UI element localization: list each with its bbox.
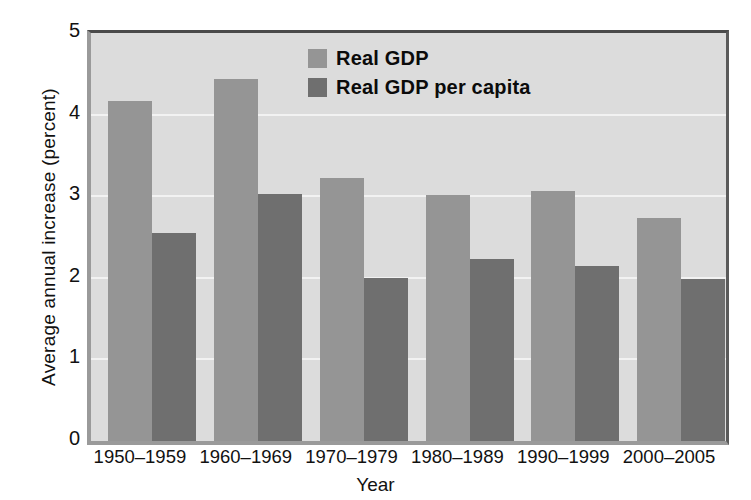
bar	[531, 191, 575, 441]
x-axis-tick-labels: 1950–19591960–19691970–19791980–19891990…	[87, 446, 722, 476]
bar-group	[620, 33, 726, 441]
bar	[364, 278, 408, 441]
bar	[320, 178, 364, 441]
bar	[214, 79, 258, 441]
bar	[637, 218, 681, 441]
bar	[426, 195, 470, 441]
y-tick-label: 2	[58, 265, 80, 285]
bar	[575, 266, 619, 441]
chart-legend: Real GDPReal GDP per capita	[308, 47, 531, 99]
legend-item: Real GDP	[308, 47, 531, 70]
x-tick-label: 1990–1999	[510, 446, 616, 468]
y-tick-label: 3	[58, 183, 80, 203]
y-tick-label: 0	[58, 428, 80, 448]
x-tick-label: 1970–1979	[299, 446, 405, 468]
x-tick-label: 1980–1989	[405, 446, 511, 468]
y-tick-label: 4	[58, 102, 80, 122]
y-tick-label: 1	[58, 346, 80, 366]
y-axis-tick-labels: 012345	[52, 0, 80, 500]
x-axis-title: Year	[0, 474, 751, 496]
x-tick-label: 1950–1959	[87, 446, 193, 468]
legend-item: Real GDP per capita	[308, 76, 531, 99]
bar	[258, 194, 302, 441]
bar	[681, 279, 725, 441]
bar-group	[197, 33, 303, 441]
bar-group	[91, 33, 197, 441]
bar	[108, 101, 152, 441]
x-tick-label: 1960–1969	[193, 446, 299, 468]
legend-swatch-icon	[308, 49, 327, 68]
y-tick-label: 5	[58, 20, 80, 40]
bar	[152, 233, 196, 441]
legend-label: Real GDP	[336, 47, 429, 70]
bar-chart: Average annual increase (percent) 012345…	[0, 0, 751, 500]
legend-swatch-icon	[308, 78, 327, 97]
legend-label: Real GDP per capita	[336, 76, 531, 99]
x-tick-label: 2000–2005	[616, 446, 722, 468]
bar	[470, 259, 514, 441]
